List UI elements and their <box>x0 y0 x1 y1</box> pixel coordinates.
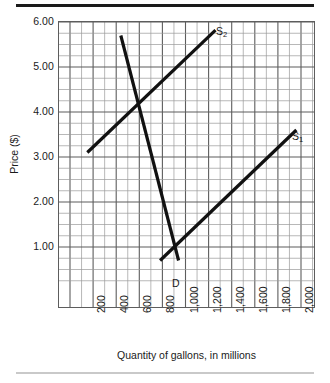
x-axis-title: Quantity of gallons, in millions <box>58 349 315 361</box>
x-tick-label: 1,800 <box>281 286 292 313</box>
x-axis-tick-labels: 2004006008001,0001,2001,4001,6001,8002,0… <box>0 0 330 383</box>
curve-label-d: D <box>172 278 180 289</box>
curve-label-s2-text: S <box>216 25 223 37</box>
curve-label-s2-subscript: 2 <box>223 30 227 39</box>
x-tick-label: 400 <box>119 295 130 313</box>
x-tick-label: 600 <box>142 295 153 313</box>
curve-label-s2: S2 <box>216 26 227 37</box>
y-axis-title: Price ($) <box>8 124 20 184</box>
x-tick-label: 200 <box>96 295 107 313</box>
x-tick-label: 2,000 <box>304 286 315 313</box>
x-tick-label: 1,600 <box>258 286 269 313</box>
supply-demand-figure: 1.002.003.004.005.006.00 2004006008001,0… <box>0 0 330 383</box>
curve-label-s1: S1 <box>292 131 303 142</box>
x-tick-label: 800 <box>165 295 176 313</box>
curve-label-s1-subscript: 1 <box>299 135 303 144</box>
curve-label-s1-text: S <box>292 130 299 142</box>
x-tick-label: 1,000 <box>189 286 200 313</box>
x-tick-label: 1,400 <box>235 286 246 313</box>
x-tick-label: 1,200 <box>212 286 223 313</box>
bottom-divider-rule <box>16 372 314 374</box>
